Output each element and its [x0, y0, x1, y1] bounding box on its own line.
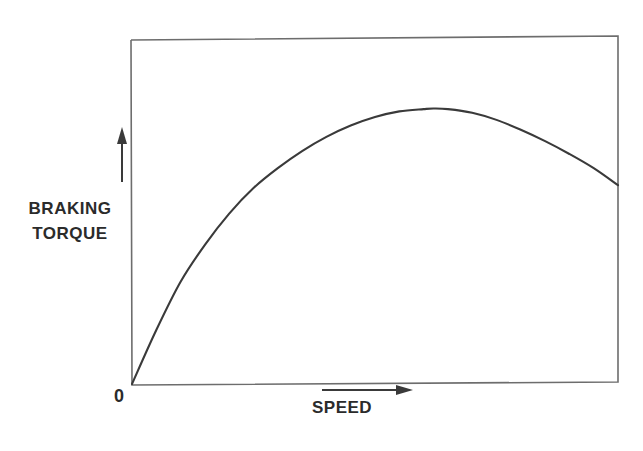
braking-torque-speed-figure: BRAKING TORQUE SPEED 0 [0, 0, 643, 451]
x-axis-label: SPEED [312, 398, 372, 418]
plot-frame-border [131, 36, 618, 385]
origin-label: 0 [114, 386, 125, 406]
y-axis-label-line2: TORQUE [14, 221, 126, 246]
y-axis-direction-arrow [117, 127, 127, 182]
x-axis-direction-arrow [322, 385, 413, 395]
y-axis-label-line1: BRAKING [14, 196, 126, 221]
braking-torque-curve [132, 109, 618, 384]
y-axis-label: BRAKING TORQUE [14, 196, 126, 246]
